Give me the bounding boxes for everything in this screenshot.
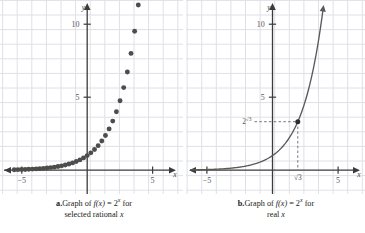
- y-tick-label-10: 10: [257, 20, 265, 29]
- figure-exponential-graphs: x y −5 5 5 10: [0, 0, 365, 233]
- data-point: [92, 147, 97, 152]
- data-point: [118, 98, 123, 103]
- data-point: [107, 126, 112, 131]
- y-tick-label-10: 10: [72, 20, 80, 29]
- grid-lines-horizontal: [186, 0, 365, 190]
- annotated-point: [295, 119, 300, 124]
- y-axis-label: y: [81, 3, 86, 12]
- panel-a-graph: x y −5 5 5 10: [0, 0, 183, 194]
- y-tick-label-5: 5: [76, 93, 80, 102]
- data-point: [136, 3, 141, 8]
- x-axis-label: x: [172, 170, 177, 179]
- data-point: [114, 109, 119, 114]
- line-plot-real: x y −5 5 5 10 2√3 √3: [186, 0, 365, 194]
- data-point: [121, 85, 126, 90]
- caption-b-fn: f(x): [276, 199, 287, 208]
- caption-b-line2-pre: real: [267, 210, 281, 219]
- data-point: [129, 51, 134, 56]
- data-point: [96, 143, 101, 148]
- x-axis-arrow-left: [4, 167, 11, 174]
- x-tick-label-5: 5: [336, 176, 340, 185]
- caption-a: a.Graph of f(x) = 2x for selected ration…: [8, 198, 180, 220]
- caption-a-eq: = 2: [105, 199, 118, 208]
- caption-a-line1: a.Graph of f(x) = 2x for: [56, 199, 132, 208]
- caption-a-line2: selected rational x: [64, 210, 123, 219]
- caption-b-line1: b.Graph of f(x) = 2x for: [238, 199, 314, 208]
- caption-a-fn: f(x): [94, 199, 105, 208]
- x-axis-label: x: [356, 170, 361, 179]
- x-tick-label-neg5: −5: [203, 176, 212, 185]
- caption-b: b.Graph of f(x) = 2x for real x: [190, 198, 362, 220]
- x-tick-label-5: 5: [151, 176, 155, 185]
- exponential-curve: [191, 10, 323, 170]
- scatter-plot-rational: x y −5 5 5 10: [0, 0, 183, 194]
- x-tick-label-neg5: −5: [18, 176, 27, 185]
- data-point: [132, 29, 137, 34]
- caption-b-line2-var: x: [281, 210, 285, 219]
- caption-a-post: for: [120, 199, 132, 208]
- data-point: [125, 70, 130, 75]
- data-point: [103, 133, 108, 138]
- caption-b-pre: Graph of: [244, 199, 275, 208]
- caption-a-line2-var: x: [120, 210, 124, 219]
- data-point: [88, 150, 93, 155]
- y-axis-label: y: [266, 3, 271, 12]
- caption-a-pre: Graph of: [62, 199, 93, 208]
- caption-a-line2-pre: selected rational: [64, 210, 119, 219]
- curve-arrow-head: [320, 5, 326, 12]
- point-x-label: √3: [294, 173, 302, 182]
- grid-lines-horizontal: [0, 0, 183, 190]
- data-point: [110, 119, 115, 124]
- caption-b-line2: real x: [267, 210, 285, 219]
- panel-b-graph: x y −5 5 5 10 2√3 √3: [186, 0, 365, 194]
- caption-b-eq: = 2: [287, 199, 300, 208]
- point-y-label: 2√3: [242, 116, 252, 126]
- data-point: [99, 139, 104, 144]
- y-tick-label-5: 5: [261, 93, 265, 102]
- caption-b-post: for: [303, 199, 315, 208]
